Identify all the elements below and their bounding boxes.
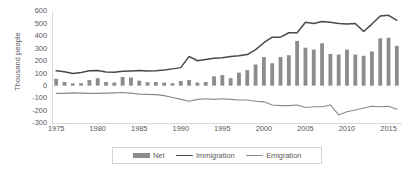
net-bar (154, 82, 158, 86)
net-bar (337, 55, 341, 86)
x-axis-tick-labels: 197519801985199019952000200520102015 (0, 125, 407, 137)
x-tick-label: 1980 (85, 125, 111, 133)
x-tick-label: 2000 (251, 125, 277, 133)
net-bar (270, 63, 274, 85)
net-bar (262, 57, 266, 86)
net-bar (171, 83, 175, 85)
net-bar (63, 82, 67, 86)
net-bar (362, 56, 366, 86)
net-bar (328, 54, 332, 86)
net-bar (196, 83, 200, 86)
x-tick-label: 2015 (376, 125, 402, 133)
net-bar (54, 79, 58, 86)
net-bar (320, 43, 324, 85)
chart-legend: NetImmigrationEmigration (112, 147, 322, 164)
x-tick-label: 1975 (43, 125, 69, 133)
net-bar (370, 51, 374, 85)
net-bars (54, 38, 399, 86)
net-bar (112, 83, 116, 86)
net-bar (96, 78, 100, 85)
net-bar (387, 38, 391, 86)
emigration-line (56, 93, 397, 115)
net-bar (121, 77, 125, 86)
net-bar (304, 48, 308, 86)
net-bar (162, 83, 166, 86)
net-bar (187, 80, 191, 86)
legend-line-swatch-icon (246, 155, 263, 156)
net-bar (146, 82, 150, 85)
legend-label: Immigration (196, 152, 235, 160)
net-bar (220, 75, 224, 86)
net-bar (129, 78, 133, 86)
migration-chart: Thousand people 6005004003002001000-100-… (0, 0, 407, 171)
net-bar (345, 50, 349, 86)
net-bar (378, 38, 382, 85)
legend-label: Emigration (266, 152, 301, 160)
net-bar (229, 78, 233, 85)
net-bar (254, 65, 258, 86)
net-bar (79, 83, 83, 85)
net-bar (245, 70, 249, 86)
legend-item-immigration[interactable]: Immigration (176, 152, 235, 160)
net-bar (237, 73, 241, 86)
x-tick-label: 1985 (126, 125, 152, 133)
x-tick-label: 1990 (168, 125, 194, 133)
net-bar (104, 82, 108, 86)
net-bar (204, 82, 208, 86)
legend-line-swatch-icon (176, 155, 193, 156)
net-bar (395, 46, 399, 86)
net-bar (179, 81, 183, 86)
net-bar (287, 55, 291, 85)
legend-label: Net (153, 152, 165, 160)
x-tick-label: 2010 (334, 125, 360, 133)
legend-item-emigration[interactable]: Emigration (246, 152, 302, 160)
net-bar (212, 76, 216, 85)
net-bar (137, 81, 141, 86)
legend-bar-swatch-icon (133, 153, 150, 158)
net-bar (71, 83, 75, 85)
x-tick-label: 1995 (209, 125, 235, 133)
net-bar (312, 50, 316, 86)
net-bar (87, 80, 91, 86)
net-bar (353, 55, 357, 86)
plot-area (0, 0, 407, 171)
net-bar (279, 57, 283, 86)
legend-item-net[interactable]: Net (133, 152, 165, 160)
net-bar (295, 41, 299, 86)
x-tick-label: 2005 (292, 125, 318, 133)
